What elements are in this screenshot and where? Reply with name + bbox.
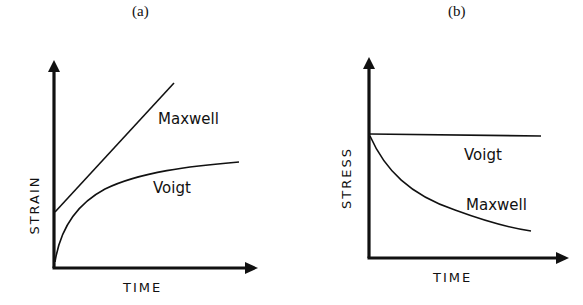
panel-b: Voigt Maxwell TIME STRESS: [339, 57, 569, 285]
panel-b-y-arrow-icon: [363, 57, 375, 69]
panel-a-x-label: TIME: [122, 280, 162, 295]
panel-b-y-label: STRESS: [339, 147, 354, 209]
panel-a-x-arrow-icon: [245, 262, 258, 274]
panel-a: Maxwell Voigt TIME STRAIN: [27, 60, 258, 295]
panel-a-y-arrow-icon: [48, 60, 60, 72]
panel-b-x-label: TIME: [432, 270, 472, 285]
panel-b-maxwell-label: Maxwell: [466, 196, 527, 214]
panel-b-maxwell-curve: [370, 136, 531, 231]
panel-b-x-arrow-icon: [556, 252, 569, 264]
panel-a-voigt-curve: [55, 162, 239, 262]
panel-b-voigt-label: Voigt: [464, 146, 502, 164]
panel-a-maxwell-label: Maxwell: [158, 110, 219, 128]
panel-a-y-label: STRAIN: [27, 175, 42, 234]
panel-b-voigt-curve: [370, 134, 541, 136]
panel-a-voigt-label: Voigt: [153, 179, 191, 197]
diagram-canvas: Maxwell Voigt TIME STRAIN Voigt Maxwell …: [0, 0, 583, 305]
